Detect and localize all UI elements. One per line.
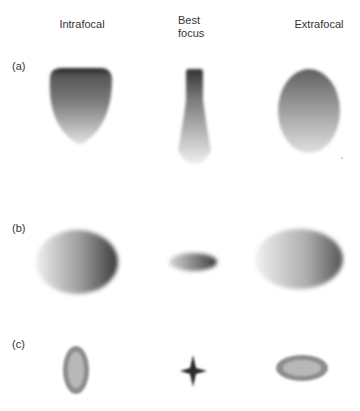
spot-a-best-focus [178,69,211,164]
spot-b-extrafocal [255,229,343,289]
spot-c-intrafocal [63,346,89,394]
spot-a-extrafocal [278,69,340,153]
spot-c-extrafocal [276,355,328,381]
spot-a-intrafocal [50,68,112,144]
spot-diagram-canvas [0,0,360,411]
spot-c-best-focus-star [180,355,207,387]
spot-b-best-focus [169,253,217,271]
spot-b-intrafocal [36,230,118,294]
stray-dot [341,157,343,159]
